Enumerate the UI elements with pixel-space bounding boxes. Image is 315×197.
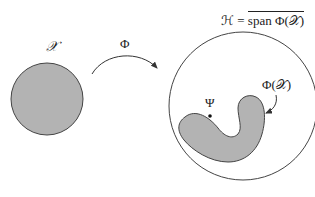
feature-space-label: ℋ = span Φ(𝒳) bbox=[221, 14, 304, 27]
feature-map-figure: 𝒳 Φ ℋ = span Φ(𝒳) Φ(𝒳) Ψ bbox=[0, 0, 315, 197]
input-space-circle bbox=[11, 63, 83, 135]
phi-label: Φ bbox=[120, 37, 130, 50]
image-region-label: Φ(𝒳) bbox=[262, 78, 291, 91]
psi-label: Ψ bbox=[205, 96, 215, 109]
phi-mapping-arrow bbox=[92, 56, 157, 74]
feature-space-label-lhs: ℋ = bbox=[221, 13, 248, 28]
feature-space-label-span: span Φ(𝒳) bbox=[248, 11, 304, 28]
image-pointer-arrow bbox=[266, 95, 276, 113]
diagram-canvas bbox=[0, 0, 315, 197]
input-space-label: 𝒳 bbox=[46, 40, 58, 54]
image-region-shape bbox=[179, 96, 265, 162]
psi-point-dot bbox=[208, 114, 212, 118]
